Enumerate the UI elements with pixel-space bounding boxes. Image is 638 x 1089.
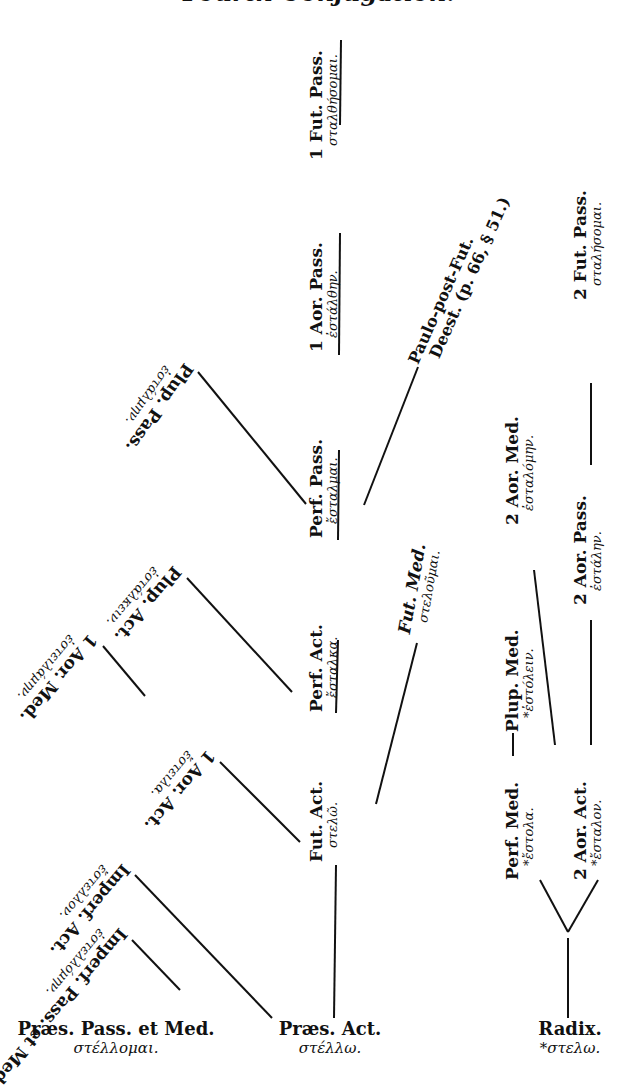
base-label: Radix. bbox=[520, 1018, 620, 1039]
node-greek: ἐστάλην. bbox=[590, 495, 604, 605]
node-1-aor-pass: 1 Aor. Pass. ἐστάλθην. bbox=[308, 242, 339, 352]
node-label: 1 Fut. Pass. bbox=[308, 50, 326, 160]
node-label: 2 Aor. Act. bbox=[572, 781, 590, 880]
node-greek: *ἔσταλον. bbox=[590, 781, 604, 880]
node-greek: σταλήσομαι. bbox=[590, 190, 604, 300]
node-greek: στελῶ. bbox=[326, 781, 340, 862]
node-label: 2 Fut. Pass. bbox=[572, 190, 590, 300]
node-label: 1 Aor. Pass. bbox=[308, 242, 326, 352]
node-1-fut-pass: 1 Fut. Pass. σταλθήσομαι. bbox=[308, 50, 339, 160]
node-label: Fut. Act. bbox=[308, 781, 326, 862]
node-fut-act: Fut. Act. στελῶ. bbox=[308, 781, 339, 862]
node-greek: ἐσταλόμην. bbox=[522, 416, 536, 525]
base-greek: *στελω. bbox=[520, 1039, 620, 1057]
node-plup-med: Plup. Med. *ἐστόλειν. bbox=[504, 629, 535, 732]
node-label: 2 Aor. Pass. bbox=[572, 495, 590, 605]
node-perf-act: Perf. Act. ἔσταλκα. bbox=[308, 624, 339, 712]
node-2-aor-med: 2 Aor. Med. ἐσταλόμην. bbox=[504, 416, 535, 525]
node-greek: ἔσταλκα. bbox=[326, 624, 340, 712]
base-radix: Radix. *στελω. bbox=[520, 1018, 620, 1057]
node-label: 2 Aor. Med. bbox=[504, 416, 522, 525]
node-2-aor-pass: 2 Aor. Pass. ἐστάλην. bbox=[572, 495, 603, 605]
node-perf-pass: Perf. Pass. ἔσταλμαι. bbox=[308, 439, 339, 538]
node-greek: ἐστάλθην. bbox=[326, 242, 340, 352]
node-greek: *ἔστολα. bbox=[522, 782, 536, 880]
base-praes-act: Præs. Act. στέλλω. bbox=[262, 1018, 398, 1057]
node-greek: σταλθήσομαι. bbox=[326, 50, 340, 160]
node-greek: ἔσταλμαι. bbox=[326, 439, 340, 538]
node-greek: *ἐστόλειν. bbox=[522, 629, 536, 732]
node-2-aor-act: 2 Aor. Act. *ἔσταλον. bbox=[572, 781, 603, 880]
base-label: Præs. Act. bbox=[262, 1018, 398, 1039]
node-label: Perf. Med. bbox=[504, 782, 522, 880]
node-label: Plup. Med. bbox=[504, 629, 522, 732]
node-label: Perf. Pass. bbox=[308, 439, 326, 538]
node-perf-med: Perf. Med. *ἔστολα. bbox=[504, 782, 535, 880]
node-label: Perf. Act. bbox=[308, 624, 326, 712]
node-2-fut-pass: 2 Fut. Pass. σταλήσομαι. bbox=[572, 190, 603, 300]
base-greek: στέλλω. bbox=[262, 1039, 398, 1057]
